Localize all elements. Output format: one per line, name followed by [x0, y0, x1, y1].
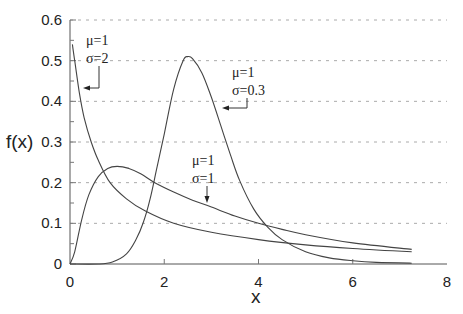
svg-text:σ=1: σ=1: [192, 171, 214, 186]
x-tick-label: 8: [443, 273, 451, 290]
y-tick-label: 0.6: [41, 11, 62, 28]
x-tick-label: 6: [349, 273, 357, 290]
svg-text:μ=1: μ=1: [192, 153, 214, 168]
annotation-sigma-0-3: μ=1 σ=0.3: [222, 65, 265, 111]
x-axis-title: x: [251, 286, 261, 307]
y-tick-label: 0.5: [41, 52, 62, 69]
y-tick-label: 0.2: [41, 174, 62, 191]
annotation-sigma-2: μ=1 σ=2: [83, 33, 108, 91]
x-tick-label: 0: [66, 273, 74, 290]
y-axis-title: f(x): [6, 131, 33, 152]
svg-text:σ=0.3: σ=0.3: [232, 83, 265, 98]
svg-text:μ=1: μ=1: [232, 65, 254, 80]
y-tick-label: 0.4: [41, 92, 62, 109]
y-tick-label: 0: [54, 255, 62, 272]
y-tick-label: 0.3: [41, 133, 62, 150]
grid-lines: [70, 20, 447, 223]
svg-text:σ=2: σ=2: [86, 51, 108, 66]
arrow-icon: [83, 86, 90, 91]
y-tick-label: 0.1: [41, 214, 62, 231]
arrow-icon: [222, 106, 229, 111]
x-tick-label: 2: [160, 273, 168, 290]
lognormal-pdf-chart: 00.10.20.30.40.50.602468 f(x) x μ=1 σ=2 …: [0, 0, 463, 314]
annotation-sigma-1: μ=1 σ=1: [192, 153, 214, 203]
arrow-icon: [205, 196, 210, 203]
svg-text:μ=1: μ=1: [86, 33, 108, 48]
